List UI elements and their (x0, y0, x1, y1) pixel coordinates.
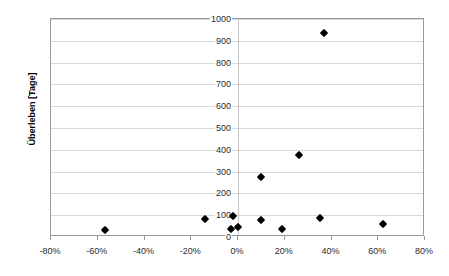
x-tick-mark (424, 236, 425, 240)
gridline (51, 193, 423, 194)
x-tick-mark (237, 236, 238, 240)
y-tick-label: 300 (215, 167, 232, 177)
y-tick-label: 500 (215, 123, 232, 133)
y-tick-label: 400 (215, 145, 232, 155)
x-tick-label: 60% (368, 246, 386, 256)
data-point (278, 225, 286, 233)
data-point (101, 226, 109, 234)
data-point (320, 29, 328, 37)
gridline (51, 41, 423, 42)
x-tick-mark (284, 236, 285, 240)
scatter-chart: Überleben [Tage] 01002003004005006007008… (0, 0, 449, 276)
x-tick-label: -20% (180, 246, 201, 256)
gridline (51, 19, 423, 20)
zero-line (238, 19, 239, 235)
data-point (295, 151, 303, 159)
x-tick-mark (377, 236, 378, 240)
x-tick-label: 0% (230, 246, 243, 256)
x-tick-label: 40% (321, 246, 339, 256)
gridline (51, 150, 423, 151)
data-point (234, 223, 242, 231)
y-axis-title: Überleben [Tage] (27, 29, 37, 189)
y-tick-label: 700 (215, 79, 232, 89)
data-point (257, 216, 265, 224)
data-point (257, 173, 265, 181)
y-tick-label: 1000 (210, 14, 232, 24)
x-tick-mark (190, 236, 191, 240)
x-tick-mark (144, 236, 145, 240)
gridline (51, 106, 423, 107)
y-tick-label: 800 (215, 58, 232, 68)
gridline (51, 128, 423, 129)
x-tick-mark (50, 236, 51, 240)
x-tick-label: 80% (415, 246, 433, 256)
gridline (51, 63, 423, 64)
y-tick-label: 600 (215, 101, 232, 111)
data-point (379, 220, 387, 228)
gridline (51, 172, 423, 173)
x-tick-label: -80% (39, 246, 60, 256)
x-tick-mark (97, 236, 98, 240)
y-tick-label: 900 (215, 36, 232, 46)
x-tick-mark (331, 236, 332, 240)
x-tick-label: -60% (86, 246, 107, 256)
x-tick-label: -40% (133, 246, 154, 256)
y-tick-label: 200 (215, 188, 232, 198)
gridline (51, 84, 423, 85)
x-tick-label: 20% (275, 246, 293, 256)
x-axis: -80%-60%-40%-20%0%20%40%60%80% (50, 236, 424, 276)
plot-area: 01002003004005006007008009001000 (50, 18, 424, 236)
